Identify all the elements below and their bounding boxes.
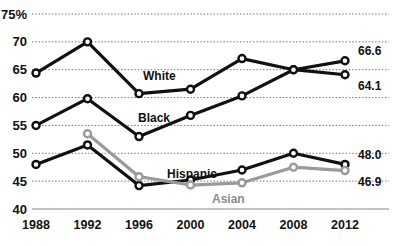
series-label-black: Black — [138, 111, 170, 125]
data-point-white-2000 — [187, 86, 194, 93]
data-point-black-1996 — [136, 133, 143, 140]
y-tick-label-70: 70 — [13, 34, 27, 49]
end-value-label-white: 64.1 — [358, 79, 382, 93]
y-tick-label-75: 75% — [1, 7, 27, 22]
data-point-white-1996 — [136, 90, 143, 97]
x-tick-label-2012: 2012 — [331, 218, 359, 232]
data-point-black-1992 — [84, 95, 91, 102]
data-point-hispanic-2008 — [290, 150, 297, 157]
end-value-label-asian: 46.9 — [358, 175, 382, 189]
data-point-hispanic-1996 — [136, 182, 143, 189]
y-tick-label-65: 65 — [13, 62, 27, 77]
data-point-white-2012 — [342, 71, 349, 78]
data-point-asian-2012 — [342, 167, 349, 174]
end-value-label-hispanic: 48.0 — [358, 148, 382, 162]
y-tick-label-60: 60 — [13, 90, 27, 105]
series-label-asian: Asian — [212, 192, 245, 206]
x-tick-label-1996: 1996 — [125, 218, 153, 232]
series-label-white: White — [143, 69, 176, 83]
y-tick-label-50: 50 — [13, 146, 27, 161]
data-point-black-2008 — [290, 66, 297, 73]
x-tick-label-2000: 2000 — [177, 218, 205, 232]
data-point-black-1988 — [33, 122, 40, 129]
y-tick-label-55: 55 — [13, 118, 27, 133]
data-point-white-1988 — [33, 70, 40, 77]
x-tick-label-1988: 1988 — [22, 218, 50, 232]
chart-canvas: 4045505560657075% 1988199219962000200420… — [0, 0, 396, 246]
data-point-asian-2004 — [239, 179, 246, 186]
data-point-asian-1996 — [136, 173, 143, 180]
x-axis-tick-labels: 1988199219962000200420082012 — [22, 218, 359, 232]
data-point-hispanic-1988 — [33, 161, 40, 168]
end-value-labels-group: 64.166.648.046.9 — [358, 44, 382, 189]
data-point-white-2004 — [239, 55, 246, 62]
y-tick-label-45: 45 — [13, 174, 27, 189]
data-point-black-2000 — [187, 112, 194, 119]
data-point-asian-2000 — [187, 182, 194, 189]
data-point-asian-1992 — [84, 130, 91, 137]
series-label-hispanic: Hispanic — [167, 167, 217, 181]
data-point-asian-2008 — [290, 164, 297, 171]
end-value-label-black: 66.6 — [358, 44, 382, 58]
x-tick-label-2008: 2008 — [280, 218, 308, 232]
data-point-hispanic-2004 — [239, 167, 246, 174]
data-point-black-2012 — [342, 57, 349, 64]
y-axis-tick-labels: 4045505560657075% — [1, 7, 27, 217]
turnout-line-chart: 4045505560657075% 1988199219962000200420… — [0, 0, 396, 246]
x-tick-label-2004: 2004 — [228, 218, 256, 232]
x-tick-label-1992: 1992 — [74, 218, 102, 232]
data-point-hispanic-1992 — [84, 141, 91, 148]
data-point-black-2004 — [239, 92, 246, 99]
y-tick-label-40: 40 — [13, 202, 27, 217]
data-point-white-1992 — [84, 38, 91, 45]
